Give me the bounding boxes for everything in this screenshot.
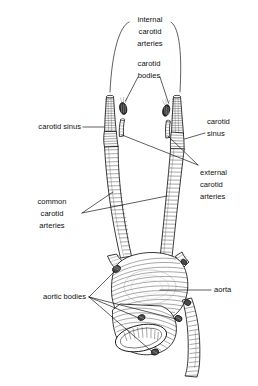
internal-carotid-artery-left xyxy=(104,95,116,132)
label-common-carotid-arteries-line3: arteries xyxy=(39,221,65,230)
label-internal-carotid-arteries: internal carotid arteries xyxy=(137,15,163,48)
label-internal-carotid-arteries-line3: arteries xyxy=(137,39,163,48)
label-common-carotid-arteries-line1: common xyxy=(37,197,66,206)
common-carotid-artery-right xyxy=(160,149,184,259)
label-internal-carotid-arteries-line2: carotid xyxy=(139,27,162,36)
external-carotid-artery-left xyxy=(119,119,124,137)
external-carotid-artery-right xyxy=(166,120,171,138)
carotid-sinus-left xyxy=(104,132,119,148)
label-carotid-sinus-right-line1: carotid xyxy=(207,117,230,126)
vessel-illustration xyxy=(104,95,200,377)
leader-external-carotid-1 xyxy=(122,135,198,165)
aortic-arch xyxy=(108,252,200,377)
label-carotid-sinus-left: carotid sinus xyxy=(38,122,81,131)
label-external-carotid-arteries-line3: arteries xyxy=(200,192,226,201)
label-carotid-sinus-right: carotid sinus xyxy=(207,117,230,138)
label-common-carotid-arteries: common carotid arteries xyxy=(37,197,66,230)
label-aorta-line1: aorta xyxy=(214,285,232,294)
label-carotid-sinus-left-line1: carotid sinus xyxy=(38,122,81,131)
leader-internal-carotid-right xyxy=(171,22,181,92)
label-aortic-bodies: aortic bodies xyxy=(43,292,86,301)
leader-carotid-bodies-right xyxy=(160,77,169,103)
figure-canvas: internal carotid arteries carotid bodies… xyxy=(0,0,258,386)
carotid-body-right xyxy=(161,99,170,117)
leader-carotid-bodies-left xyxy=(126,77,139,101)
label-carotid-sinus-right-line2: sinus xyxy=(207,129,225,138)
common-carotid-artery-left xyxy=(105,147,136,259)
leader-internal-carotid-left xyxy=(110,22,129,92)
internal-carotid-artery-right xyxy=(171,95,183,134)
label-aortic-bodies-line1: aortic bodies xyxy=(43,292,86,301)
label-carotid-bodies-line2: bodies xyxy=(138,71,161,80)
carotid-sinus-right xyxy=(170,132,184,150)
leader-carotid-sinus-right xyxy=(185,133,206,139)
label-carotid-bodies: carotid bodies xyxy=(138,59,161,80)
label-common-carotid-arteries-line2: carotid xyxy=(41,209,64,218)
label-external-carotid-arteries-line2: carotid xyxy=(200,180,223,189)
label-carotid-bodies-line1: carotid xyxy=(138,59,161,68)
label-external-carotid-arteries-line1: external xyxy=(200,168,227,177)
anatomical-figure-carotid-aortic-bodies: internal carotid arteries carotid bodies… xyxy=(0,0,258,386)
label-external-carotid-arteries: external carotid arteries xyxy=(200,168,227,201)
label-aorta: aorta xyxy=(214,285,232,294)
label-internal-carotid-arteries-line1: internal xyxy=(138,15,163,24)
